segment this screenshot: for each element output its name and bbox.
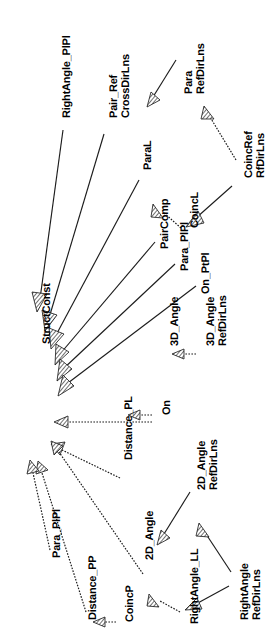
arrowhead-rightangle-refdirlns-to-2d: [196, 523, 209, 537]
edge-paral: [55, 180, 139, 337]
node-pair-ref-label-2: CrossDirLns: [120, 54, 132, 118]
node-para-label-2: RefDirLns: [195, 43, 207, 94]
node-para-plpl[interactable]: Para_PlPl: [180, 222, 192, 271]
edge-rightangle-refdirlns-to-2d: [206, 534, 231, 572]
node-3d-angle-refdirlns-label: 3D_Angle: [205, 295, 217, 346]
edge-paircomp: [60, 242, 155, 354]
diagram-canvas: StructConst RightAngle_PlPl Pair_Ref Cro…: [0, 0, 277, 638]
node-coincp[interactable]: CoincP: [125, 585, 137, 622]
edge-rightangle-ll-to-2d-angle: [160, 601, 180, 612]
edge-distance-pl: [62, 450, 120, 478]
node-on-label: On: [162, 400, 174, 415]
arrowhead-3d-angle: [54, 416, 68, 428]
node-rightangle-ll-label: RightAngle_LL: [190, 548, 202, 624]
node-coincref-label: CoincRef: [243, 131, 255, 178]
edge-para-plpl-2: [33, 473, 50, 550]
node-2d-angle[interactable]: 2D_Angle: [145, 511, 157, 560]
node-coincref-label-2: RfDirLns: [255, 131, 267, 178]
node-coincl[interactable]: CoincL: [190, 192, 202, 228]
node-structconst-label: StructConst: [42, 283, 54, 344]
node-3d-angle-refdirlns-label-2: RefDirLns: [217, 295, 229, 346]
node-rightangle-plpl[interactable]: RightAngle_PlPl: [62, 35, 74, 118]
node-on[interactable]: On: [162, 400, 174, 415]
node-paircomp[interactable]: PairComp: [160, 199, 172, 249]
arrowhead-coincref-to-para: [201, 106, 214, 119]
node-rightangle-refdirlns-label-2: RefDirLns: [251, 563, 263, 620]
node-2d-angle-label: 2D_Angle: [145, 511, 157, 560]
node-distance-pp-label: Distance_PP: [88, 556, 100, 620]
edge-2d-angle: [59, 452, 143, 574]
edge-para-plpl: [62, 264, 175, 370]
node-coincp-label: CoincP: [125, 585, 137, 622]
node-para-plpl-2[interactable]: Para_PlPl: [52, 509, 64, 558]
node-distance-pl-label: Distance_PL: [124, 396, 136, 460]
node-rightangle-refdirlns-label: RightAngle: [239, 563, 251, 620]
node-para-label: Para: [183, 43, 195, 94]
edge-para-to-paral: [153, 60, 176, 97]
node-pair-ref-crossdirlns[interactable]: Pair_Ref CrossDirLns: [108, 54, 132, 118]
edge-distance-pp: [42, 473, 86, 612]
edge-group-2d-angle-branch: [93, 492, 231, 627]
node-3d-angle-refdirlns[interactable]: 3D_Angle RefDirLns: [205, 295, 229, 346]
node-para-refdirlns[interactable]: Para RefDirLns: [183, 43, 207, 94]
node-rightangle-ll[interactable]: RightAngle_LL: [190, 548, 202, 624]
node-structconst[interactable]: StructConst: [42, 283, 54, 344]
arrowhead-rightangle-ll-to-2d-angle: [147, 594, 159, 607]
edge-group-3d-angle-branch: [172, 349, 196, 359]
arrowhead-3d-refdirlns: [172, 349, 184, 359]
edge-pair-ref: [49, 134, 104, 318]
node-3d-angle[interactable]: 3D_Angle: [170, 297, 182, 346]
node-para-plpl-label: Para_PlPl: [180, 222, 192, 271]
node-on-ptpl[interactable]: On_PtPl: [201, 253, 213, 294]
node-distance-pl[interactable]: Distance_PL: [124, 396, 136, 460]
node-on-ptpl-label: On_PtPl: [201, 253, 213, 294]
edge-2d-refdirlns-to-2d-angle: [164, 492, 190, 534]
node-distance-pp[interactable]: Distance_PP: [88, 556, 100, 620]
arrowhead-para-to-paral: [147, 92, 160, 107]
node-paral-label: ParaL: [143, 140, 155, 170]
node-2d-angle-refdirlns[interactable]: 2D_Angle RefDirLns: [196, 439, 220, 490]
node-3d-angle-label: 3D_Angle: [170, 297, 182, 346]
node-paircomp-label: PairComp: [160, 199, 172, 249]
node-2d-angle-refdirlns-label: 2D_Angle: [196, 439, 208, 490]
node-paral[interactable]: ParaL: [143, 140, 155, 170]
node-2d-angle-refdirlns-label-2: RefDirLns: [208, 439, 220, 490]
node-rightangle-refdirlns[interactable]: RightAngle RefDirLns: [239, 563, 263, 620]
node-para-plpl-2-label: Para_PlPl: [52, 509, 64, 558]
node-coincref-rfdirlns[interactable]: CoincRef RfDirLns: [243, 131, 267, 178]
edge-rightangle-plpl: [40, 130, 63, 299]
arrowhead-distance-pp: [36, 461, 48, 474]
node-coincl-label: CoincL: [190, 192, 202, 228]
node-pair-ref-label: Pair_Ref: [108, 54, 120, 118]
node-rightangle-plpl-label: RightAngle_PlPl: [62, 35, 74, 118]
edge-coincref-to-para: [210, 117, 236, 160]
arrowhead-2d-refdirlns-to-2d-angle: [157, 530, 170, 545]
